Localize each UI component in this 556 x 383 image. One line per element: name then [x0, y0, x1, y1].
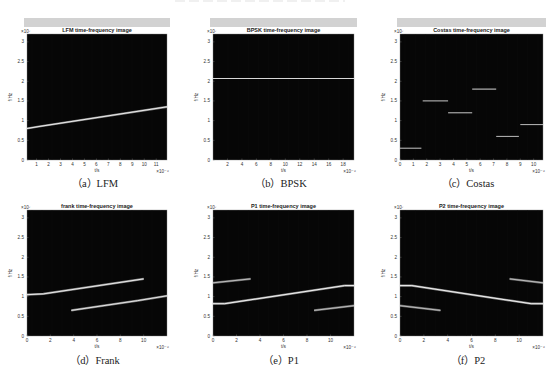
x-axis-label: t/s — [94, 168, 100, 173]
y-tick-label: 1 — [207, 118, 210, 123]
x-tick-label: 8 — [270, 162, 273, 167]
x-tick-label: 4 — [241, 162, 244, 167]
subplot-e: P1 time-frequency image×10⁷00.511.522.53… — [194, 203, 356, 350]
x-tick-label: 2 — [49, 338, 52, 343]
x-tick-label: 3 — [59, 162, 62, 167]
y-axis-label: f/Hz — [381, 92, 386, 101]
plot-title: Costas time-frequency image — [433, 27, 510, 33]
x-tick-label: 10 — [142, 162, 148, 167]
x-tick-label: 9 — [131, 162, 134, 167]
y-tick-label: 1 — [21, 118, 24, 123]
x-tick-label: 4 — [72, 338, 75, 343]
grey-header-bar — [24, 18, 170, 27]
y-tick-label: 2 — [394, 255, 397, 260]
y-tick-label: 1.5 — [391, 98, 398, 103]
y-tick-label: 2.5 — [18, 235, 25, 240]
y-axis-label: f/Hz — [8, 268, 13, 277]
x-exponent-label: ×10⁻⁶ — [343, 345, 356, 350]
subfigure-caption: （d）Frank — [35, 352, 155, 367]
y-tick-label: 0.5 — [391, 138, 398, 143]
x-tick-label: 18 — [341, 162, 347, 167]
y-tick-label: 3 — [394, 39, 397, 44]
x-tick-label: 1 — [35, 162, 38, 167]
subfigure-caption: （c）Costas — [408, 175, 528, 190]
x-tick-label: 6 — [470, 338, 473, 343]
y-axis-label: f/Hz — [194, 268, 199, 277]
y-exponent-label: ×10⁷ — [21, 29, 31, 34]
y-tick-label: 0 — [21, 158, 24, 163]
y-exponent-label: ×10⁷ — [21, 205, 31, 210]
plot-area — [27, 210, 167, 336]
grey-header-bar — [210, 18, 357, 27]
y-axis-label: f/Hz — [8, 92, 13, 101]
x-tick-label: 11 — [154, 162, 159, 167]
x-tick-label: 10 — [517, 338, 523, 343]
y-tick-label: 2 — [21, 79, 24, 84]
x-axis-label: t/s — [281, 344, 287, 349]
y-tick-label: 0 — [394, 158, 397, 163]
x-tick-label: 2 — [235, 338, 238, 343]
y-tick-label: 3 — [394, 215, 397, 220]
plot-area — [213, 210, 354, 336]
x-exponent-label: ×10⁻⁶ — [532, 169, 545, 174]
x-tick-label: 7 — [107, 162, 110, 167]
y-tick-label: 1.5 — [391, 274, 398, 279]
plot-title: BPSK time-frequency image — [247, 27, 321, 33]
subfigure-caption: （b）BPSK — [221, 175, 341, 190]
y-tick-label: 2.5 — [204, 59, 211, 64]
x-tick-label: 6 — [479, 162, 482, 167]
plot-area — [400, 34, 543, 160]
plot-title: P2 time-frequency image — [439, 203, 504, 209]
x-tick-label: 6 — [96, 338, 99, 343]
y-tick-label: 0 — [394, 334, 397, 339]
x-exponent-label: ×10⁻⁶ — [343, 169, 356, 174]
x-tick-label: 5 — [83, 162, 86, 167]
plot-title: frank time-frequency image — [61, 203, 133, 209]
y-tick-label: 0 — [207, 158, 210, 163]
y-tick-label: 3 — [21, 39, 24, 44]
y-tick-label: 2 — [207, 79, 210, 84]
y-tick-label: 1.5 — [18, 274, 25, 279]
y-tick-label: 1.5 — [204, 98, 211, 103]
x-tick-label: 5 — [466, 162, 469, 167]
y-tick-label: 1 — [394, 294, 397, 299]
plot-title: LFM time-frequency image — [62, 27, 132, 33]
y-tick-label: 0 — [207, 334, 210, 339]
y-exponent-label: ×10⁷ — [207, 205, 217, 210]
x-axis-label: t/s — [281, 168, 287, 173]
y-tick-label: 0.5 — [18, 138, 25, 143]
y-tick-label: 1 — [207, 294, 210, 299]
x-exponent-label: ×10⁻⁶ — [156, 345, 169, 350]
x-tick-label: 0 — [212, 338, 215, 343]
grey-header-bar — [397, 18, 546, 27]
y-tick-label: 2.5 — [18, 59, 25, 64]
y-tick-label: 0.5 — [204, 138, 211, 143]
x-axis-label: t/s — [469, 344, 475, 349]
plot-area — [27, 34, 167, 160]
x-tick-label: 0 — [26, 338, 29, 343]
x-tick-label: 14 — [312, 162, 318, 167]
y-tick-label: 0.5 — [204, 314, 211, 319]
subplot-b: BPSK time-frequency image×10⁷00.511.522.… — [194, 18, 357, 174]
subplot-d: frank time-frequency image×10⁷00.511.522… — [8, 203, 169, 350]
x-tick-label: 6 — [95, 162, 98, 167]
y-axis-label: f/Hz — [381, 268, 386, 277]
x-tick-label: 8 — [306, 338, 309, 343]
y-tick-label: 0 — [21, 334, 24, 339]
x-tick-label: 0 — [399, 162, 402, 167]
x-tick-label: 2 — [47, 162, 50, 167]
x-axis-label: t/s — [94, 344, 100, 349]
x-tick-label: 2 — [425, 162, 428, 167]
x-tick-label: 8 — [506, 162, 509, 167]
x-tick-label: 6 — [255, 162, 258, 167]
subfigure-caption: （a）LFM — [35, 175, 155, 190]
x-tick-label: 8 — [119, 162, 122, 167]
y-tick-label: 1 — [394, 118, 397, 123]
x-tick-label: 10 — [328, 338, 334, 343]
y-tick-label: 1.5 — [18, 98, 25, 103]
x-tick-label: 8 — [494, 338, 497, 343]
plot-area — [213, 34, 354, 160]
x-exponent-label: ×10⁻⁶ — [156, 169, 169, 174]
y-tick-label: 1 — [21, 294, 24, 299]
y-tick-label: 3 — [207, 215, 210, 220]
